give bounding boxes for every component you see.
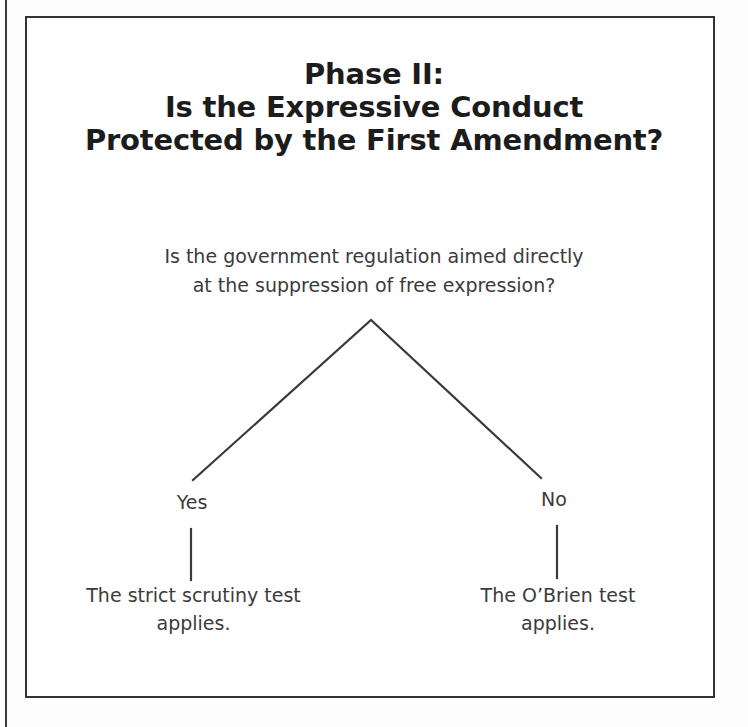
figure-title-line-3: Protected by the First Amendment? [0, 124, 748, 157]
root-question: Is the government regulation aimed direc… [0, 242, 748, 300]
figure-title: Phase II: Is the Expressive Conduct Prot… [0, 58, 748, 157]
root-question-line-1: Is the government regulation aimed direc… [0, 242, 748, 271]
figure-page: Phase II: Is the Expressive Conduct Prot… [0, 0, 748, 727]
branch-label-yes: Yes [132, 491, 252, 513]
figure-title-line-1: Phase II: [0, 58, 748, 91]
outcome-no: The O’Brien test applies. [438, 581, 678, 637]
outcome-no-line-2: applies. [438, 609, 678, 637]
outcome-yes: The strict scrutiny test applies. [51, 581, 336, 637]
outcome-yes-line-1: The strict scrutiny test [51, 581, 336, 609]
outcome-yes-line-2: applies. [51, 609, 336, 637]
branch-label-no: No [494, 488, 614, 510]
outcome-no-line-1: The O’Brien test [438, 581, 678, 609]
root-question-line-2: at the suppression of free expression? [0, 271, 748, 300]
figure-title-line-2: Is the Expressive Conduct [0, 91, 748, 124]
